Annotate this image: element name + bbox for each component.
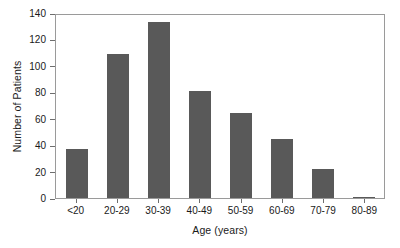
bar-slot <box>343 15 384 198</box>
x-tick-label: 70-79 <box>303 204 344 217</box>
x-tick-mark <box>282 199 283 203</box>
y-tick-label: 60 <box>0 113 46 127</box>
bar-series <box>56 15 384 198</box>
x-tick-label: 50-59 <box>220 204 261 217</box>
y-tick-label: 100 <box>0 60 46 74</box>
bar[interactable] <box>230 113 252 198</box>
x-tick-label: 20-29 <box>96 204 137 217</box>
bar-slot <box>220 15 261 198</box>
bar[interactable] <box>271 139 293 198</box>
bar[interactable] <box>148 22 170 198</box>
y-tick-label: 140 <box>0 7 46 21</box>
x-tick-mark <box>158 199 159 203</box>
plot-area <box>55 14 385 199</box>
y-tick-label: 0 <box>0 192 46 206</box>
x-tick-mark <box>323 199 324 203</box>
x-axis-tick: 70-79 <box>303 199 344 221</box>
bar[interactable] <box>66 149 88 198</box>
x-tick-mark <box>241 199 242 203</box>
x-tick-label: <20 <box>55 204 96 217</box>
x-axis-tick: <20 <box>55 199 96 221</box>
bar-slot <box>302 15 343 198</box>
x-axis-tick: 60-69 <box>261 199 302 221</box>
x-axis-tick: 50-59 <box>220 199 261 221</box>
chart-figure: Number of Patients 020406080100120140 <2… <box>0 0 400 248</box>
y-tick-label: 120 <box>0 33 46 47</box>
y-tick-label: 20 <box>0 166 46 180</box>
bar[interactable] <box>353 197 375 198</box>
x-tick-label: 30-39 <box>138 204 179 217</box>
bar-slot <box>179 15 220 198</box>
x-axis-tick: 40-49 <box>179 199 220 221</box>
x-axis-title: Age (years) <box>55 224 385 236</box>
bar[interactable] <box>312 169 334 198</box>
bar-slot <box>97 15 138 198</box>
x-tick-label: 60-69 <box>261 204 302 217</box>
bar-slot <box>261 15 302 198</box>
x-tick-mark <box>76 199 77 203</box>
x-axis-ticks: <2020-2930-3940-4950-5960-6970-7980-89 <box>55 199 385 221</box>
bar-slot <box>56 15 97 198</box>
x-tick-label: 40-49 <box>179 204 220 217</box>
y-tick-label: 80 <box>0 86 46 100</box>
bar[interactable] <box>189 91 211 198</box>
x-tick-label: 80-89 <box>344 204 385 217</box>
bar-slot <box>138 15 179 198</box>
x-axis-tick: 80-89 <box>344 199 385 221</box>
x-axis-tick: 20-29 <box>96 199 137 221</box>
x-axis-tick: 30-39 <box>138 199 179 221</box>
bar[interactable] <box>107 54 129 198</box>
x-tick-mark <box>199 199 200 203</box>
x-tick-mark <box>117 199 118 203</box>
x-tick-mark <box>364 199 365 203</box>
y-tick-label: 40 <box>0 139 46 153</box>
